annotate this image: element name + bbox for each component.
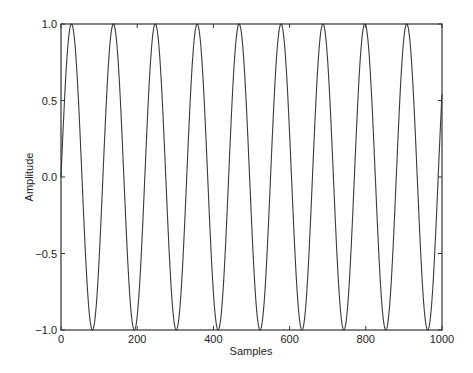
x-tick-label: 400: [204, 333, 222, 345]
x-tick-label: 800: [357, 333, 375, 345]
y-tick-label: 0.5: [42, 95, 57, 107]
x-tick-label: 1000: [430, 333, 454, 345]
plot-area: [61, 24, 442, 330]
x-tick-label: 0: [58, 333, 64, 345]
y-tick-label: 1.0: [42, 18, 57, 30]
y-tick-label: 0.0: [42, 171, 57, 183]
y-tick-label: −1.0: [35, 324, 57, 336]
x-axis-label: Samples: [230, 345, 273, 357]
sine-wave-line: [61, 24, 442, 330]
y-axis-label: Amplitude: [23, 153, 35, 202]
y-tick-label: −0.5: [35, 248, 57, 260]
x-tick-label: 200: [128, 333, 146, 345]
x-tick-label: 600: [280, 333, 298, 345]
line-chart: 1.00.50.0−0.5−1.0 02004006008001000 Samp…: [0, 0, 473, 373]
